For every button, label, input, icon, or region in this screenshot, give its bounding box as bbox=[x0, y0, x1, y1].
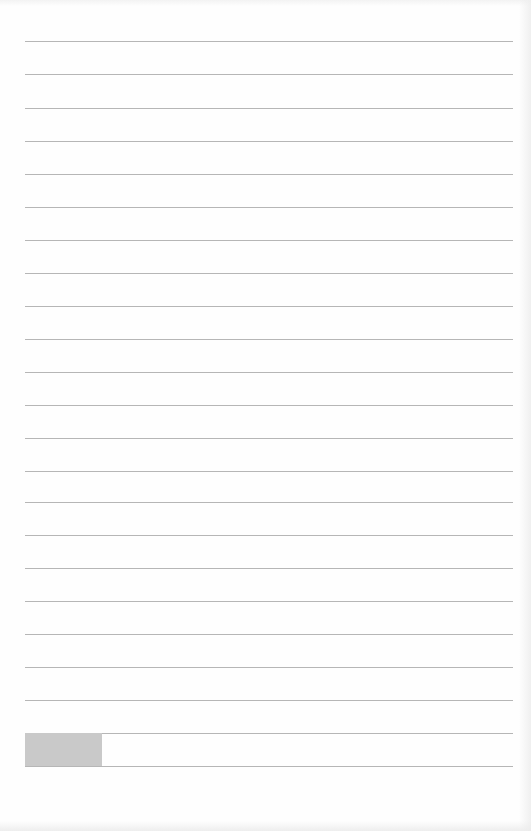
ruled-line bbox=[25, 700, 513, 701]
ruled-line bbox=[25, 108, 513, 109]
ruled-line bbox=[25, 766, 513, 767]
ruled-line bbox=[25, 667, 513, 668]
scan-edge-bottom bbox=[0, 821, 531, 831]
ruled-line bbox=[25, 405, 513, 406]
ruled-line bbox=[25, 568, 513, 569]
ruled-line bbox=[25, 502, 513, 503]
ruled-line bbox=[25, 634, 513, 635]
ruled-line bbox=[25, 339, 513, 340]
ruled-line bbox=[25, 438, 513, 439]
ruled-line bbox=[25, 306, 513, 307]
ruled-line bbox=[25, 471, 513, 472]
scan-edge-top bbox=[0, 0, 531, 6]
ruled-line bbox=[25, 273, 513, 274]
ruled-line bbox=[25, 41, 513, 42]
ruled-line bbox=[25, 74, 513, 75]
lined-paper-page bbox=[0, 0, 531, 831]
ruled-line bbox=[25, 535, 513, 536]
ruled-line bbox=[25, 207, 513, 208]
ruled-line bbox=[25, 141, 513, 142]
scan-edge-right bbox=[519, 0, 531, 831]
ruled-line bbox=[25, 601, 513, 602]
ruled-line bbox=[25, 372, 513, 373]
shaded-box bbox=[25, 733, 102, 766]
ruled-line bbox=[25, 174, 513, 175]
ruled-line bbox=[25, 240, 513, 241]
